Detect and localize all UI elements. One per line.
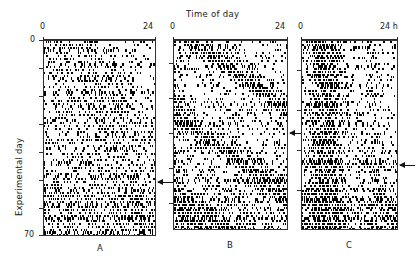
y-axis-label: Experimental day xyxy=(14,138,24,216)
y-tick-label-bottom: 70 xyxy=(24,230,34,239)
panel-a-ytick xyxy=(39,208,43,209)
arrow-head-icon xyxy=(289,130,295,136)
panel-a-x-left-label: 0 xyxy=(40,22,45,31)
panel-b-ytick xyxy=(169,168,173,169)
figure-title: Time of day xyxy=(186,9,239,19)
panel-b-ytick xyxy=(169,133,173,134)
panel-b-letter: B xyxy=(227,240,233,250)
panel-a-treatment-arrow xyxy=(158,182,174,183)
panel-c-actogram xyxy=(301,40,398,230)
panel-c-letter: C xyxy=(346,240,352,250)
panel-b-actogram xyxy=(173,40,288,230)
panel-c-ytick xyxy=(297,190,301,191)
panel-c-ytick xyxy=(297,150,301,151)
panel-a-ytick xyxy=(39,235,43,236)
panel-c-x-right-label: 24 h xyxy=(380,22,398,31)
panel-b-x-right-label: 24 xyxy=(275,22,285,31)
panel-b-ytick xyxy=(169,63,173,64)
panel-c-x-left-label: 0 xyxy=(298,22,303,31)
panel-a-x-right-label: 24 xyxy=(143,22,153,31)
panel-a-ytick xyxy=(39,96,43,97)
panel-a-letter: A xyxy=(97,243,103,253)
arrow-head-icon xyxy=(399,162,405,168)
panel-a-ytick xyxy=(39,68,43,69)
panel-a-ytick xyxy=(39,152,43,153)
actogram-figure: Time of day Experimental day 0 70 0 24 A… xyxy=(0,0,419,264)
panel-b-ytick xyxy=(169,203,173,204)
panel-c-treatment-arrow xyxy=(400,165,415,166)
arrow-head-icon xyxy=(157,179,163,185)
panel-a-ytick xyxy=(39,40,43,41)
panel-b-x-left-label: 0 xyxy=(170,22,175,31)
panel-a-ytick xyxy=(39,124,43,125)
panel-c-ytick xyxy=(297,110,301,111)
panel-c-ytick xyxy=(297,70,301,71)
panel-a-ytick xyxy=(39,180,43,181)
y-tick-label-top: 0 xyxy=(30,35,35,44)
panel-a-actogram xyxy=(43,40,156,236)
panel-b-ytick xyxy=(169,98,173,99)
